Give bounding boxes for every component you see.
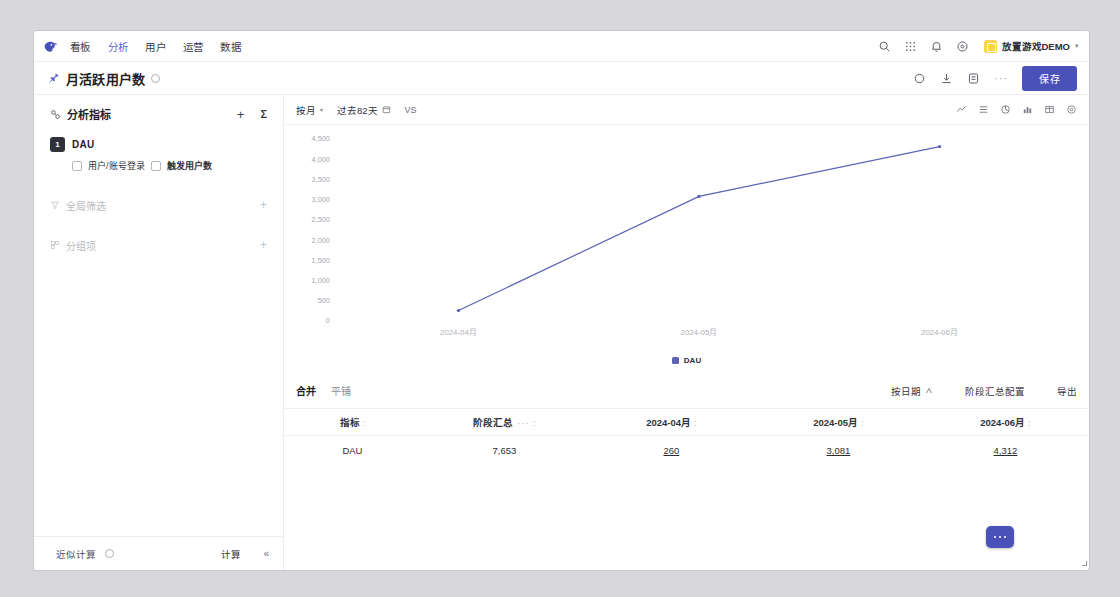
metric-index-badge: 1 (50, 137, 65, 152)
nav-item-users[interactable]: 用户 (145, 39, 166, 54)
search-icon[interactable] (878, 40, 891, 53)
col-header-label: 2024-04月 (646, 417, 691, 428)
resize-corner-icon[interactable] (1082, 561, 1087, 566)
save-button[interactable]: 保存 (1022, 66, 1077, 91)
x-axis-tick: 2024-04月 (440, 328, 477, 337)
nav-item-data[interactable]: 数据 (220, 39, 241, 54)
report-content: 按月 ▾ 过去82天 VS (284, 95, 1089, 570)
calculate-button[interactable]: 计算 (221, 547, 241, 561)
y-axis-tick: 1,500 (312, 257, 330, 265)
sort-by-date-label: 按日期 (891, 384, 921, 398)
sidebar-spacer (34, 262, 283, 536)
copy-icon[interactable] (967, 72, 980, 85)
download-icon[interactable] (940, 72, 953, 85)
bar-chart-icon[interactable] (1022, 104, 1033, 115)
add-grouping-button[interactable]: + (260, 239, 267, 251)
col-header-colon: : (1028, 417, 1031, 428)
metric-item-dau[interactable]: 1 DAU 用户/账号登录 触发用户数 (34, 131, 283, 172)
col-header-colon: : (363, 417, 366, 428)
date-range-label: 过去82天 (337, 103, 378, 117)
y-axis-tick: 2,500 (312, 217, 330, 225)
chevron-down-icon: ▾ (1075, 42, 1079, 50)
add-metric-button[interactable]: + (237, 108, 245, 121)
add-global-filter-button[interactable]: + (260, 199, 267, 211)
chart-canvas: 4,5004,0003,5003,0002,5002,0001,5001,000… (284, 125, 1089, 351)
stacked-chart-icon[interactable] (978, 104, 989, 115)
vs-compare-button[interactable]: VS (405, 105, 417, 115)
workspace-body: 分析指标 + Σ 1 DAU 用户/账号登录 触发用户数 (34, 95, 1089, 570)
tab-tile[interactable]: 平铺 (331, 383, 351, 398)
info-circle-icon[interactable] (151, 74, 160, 83)
calendar-icon (382, 105, 391, 114)
cell-2024-06[interactable]: 4,312 (922, 436, 1089, 463)
pin-icon[interactable] (48, 72, 60, 84)
metric-measure-label[interactable]: 触发用户数 (167, 159, 212, 172)
granularity-selector[interactable]: 按月 ▾ (296, 103, 323, 117)
approx-info-icon[interactable] (105, 549, 114, 558)
sidebar-section-global-filter[interactable]: 全局筛选 + (34, 188, 283, 222)
sigma-formula-icon[interactable]: Σ (260, 109, 267, 120)
sidebar-title: 分析指标 (67, 106, 111, 122)
series-line-dau (458, 147, 939, 311)
chart-type-toolbar (956, 104, 1077, 115)
project-selector[interactable]: 放置游戏DEMO ▾ (984, 39, 1080, 53)
col-header-2024-04[interactable]: 2024-04月: (588, 409, 755, 436)
line-chart-icon[interactable] (956, 104, 967, 115)
settings-gear-icon[interactable] (1066, 104, 1077, 115)
date-range-selector[interactable]: 过去82天 (337, 103, 391, 117)
table-header-row: 指标: 阶段汇总···: 2024-04月: 2024-05月: 2024-06 (284, 409, 1089, 436)
bell-icon[interactable] (930, 40, 943, 53)
export-button[interactable]: 导出 (1057, 384, 1077, 398)
data-point[interactable] (697, 195, 700, 198)
bird-logo[interactable] (42, 38, 59, 55)
nav-item-analysis[interactable]: 分析 (108, 39, 129, 54)
nav-item-operations[interactable]: 运营 (183, 39, 204, 54)
col-header-2024-05[interactable]: 2024-05月: (755, 409, 922, 436)
sort-by-date-button[interactable]: 按日期 (891, 384, 933, 398)
nav-item-kanban[interactable]: 看板 (70, 39, 91, 54)
table-head: 指标: 阶段汇总···: 2024-04月: 2024-05月: 2024-06 (284, 409, 1089, 436)
analytics-app-window: 看板 分析 用户 运营 数据 (33, 30, 1090, 571)
filter-icon (50, 200, 60, 210)
table-toolbar: 合并 平铺 按日期 阶段汇总配置 导出 (284, 369, 1089, 408)
y-axis-tick: 4,000 (312, 156, 330, 164)
chat-dots-icon (994, 536, 1007, 539)
refresh-icon[interactable] (913, 72, 926, 85)
sort-icon (925, 387, 933, 395)
pie-chart-icon[interactable] (1000, 104, 1011, 115)
col-header-2024-06[interactable]: 2024-06月: (922, 409, 1089, 436)
chat-widget-button[interactable] (986, 526, 1014, 548)
legend-label[interactable]: DAU (684, 356, 701, 365)
cell-2024-04[interactable]: 260 (588, 436, 755, 463)
collapse-sidebar-button[interactable]: « (263, 548, 269, 559)
table-icon[interactable] (1044, 104, 1055, 115)
top-navigation-actions: 放置游戏DEMO ▾ (878, 39, 1080, 53)
data-point[interactable] (938, 145, 941, 148)
x-axis-tick: 2024-05月 (681, 328, 718, 337)
approx-calc-label: 近似计算 (56, 547, 96, 561)
chevron-down-icon: ▾ (320, 106, 323, 113)
col-header-label: 2024-06月 (980, 417, 1025, 428)
metric-event-label[interactable]: 用户/账号登录 (88, 159, 145, 172)
sidebar-footer-actions: 计算 « (221, 547, 269, 561)
more-options-icon[interactable]: ··· (994, 73, 1008, 84)
chart-legend: DAU (284, 351, 1089, 369)
legend-color-swatch (672, 357, 679, 364)
measure-icon (151, 161, 161, 171)
cell-2024-05[interactable]: 3,081 (755, 436, 922, 463)
page-title: 月活跃用户数 (66, 69, 145, 88)
col-header-metric[interactable]: 指标: (284, 409, 421, 436)
col-header-colon: : (694, 417, 697, 428)
help-circle-icon[interactable] (956, 40, 969, 53)
x-axis-tick: 2024-06月 (921, 328, 958, 337)
top-navigation-bar: 看板 分析 用户 运营 数据 (34, 31, 1089, 62)
tab-merge[interactable]: 合并 (296, 383, 316, 398)
col-header-stage-total[interactable]: 阶段汇总···: (421, 409, 588, 436)
data-point[interactable] (457, 309, 460, 312)
grid-apps-icon[interactable] (904, 40, 917, 53)
results-table: 指标: 阶段汇总···: 2024-04月: 2024-05月: 2024-06 (284, 408, 1089, 462)
stage-summary-config-button[interactable]: 阶段汇总配置 (965, 384, 1025, 398)
col-header-label: 2024-05月 (813, 417, 858, 428)
sidebar-section-grouping[interactable]: 分组项 + (34, 228, 283, 262)
sidebar-section-label: 全局筛选 (66, 198, 106, 213)
